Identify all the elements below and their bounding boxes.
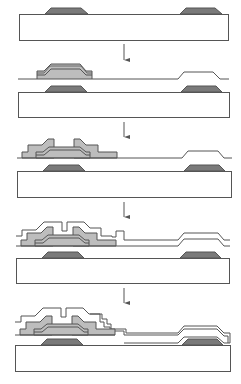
substrate [18, 172, 232, 198]
gate-electrode-right [182, 339, 223, 345]
stage-3 [17, 139, 232, 198]
gate-electrode-left [45, 8, 88, 14]
stage-5 [15, 308, 231, 372]
gate-electrode-left [42, 252, 84, 258]
substrate [19, 93, 230, 118]
figure-caption [0, 372, 241, 384]
gate-electrode-left [43, 165, 85, 171]
substrate [16, 346, 231, 372]
substrate [17, 259, 230, 284]
process-flow-diagram [0, 0, 241, 384]
substrate [20, 15, 229, 41]
gate-electrode-left [41, 339, 83, 345]
gate-electrode-right [180, 8, 222, 14]
gate-electrode-right [180, 252, 221, 258]
gate-electrode-right [184, 165, 225, 171]
gate-electrode-left [45, 86, 87, 92]
stage-1 [20, 8, 229, 41]
gate-electrode-right [181, 86, 222, 92]
stage-2 [18, 64, 230, 118]
stage-4 [16, 222, 230, 284]
